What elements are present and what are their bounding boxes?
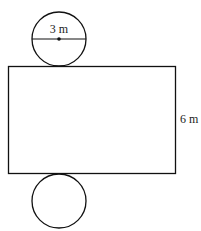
cylinder-net-diagram: 3 m 6 m [0, 0, 201, 231]
lateral-rectangle [9, 67, 176, 174]
height-label: 6 m [180, 112, 199, 126]
diameter-label: 3 m [50, 22, 69, 36]
center-dot [57, 37, 61, 41]
bottom-circle [32, 174, 86, 228]
